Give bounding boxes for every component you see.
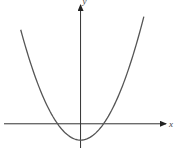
x-axis-label: x: [168, 119, 173, 129]
parabola-curve: [21, 17, 144, 140]
parabola-chart: x y: [0, 0, 175, 148]
y-axis-label: y: [82, 0, 87, 6]
